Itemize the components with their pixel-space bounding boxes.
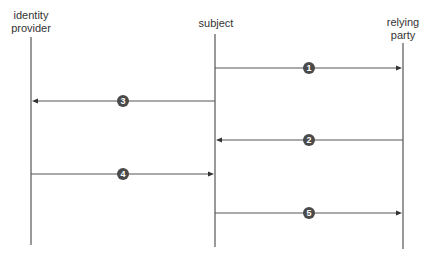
step-number: 3 — [120, 96, 125, 106]
sequence-diagram: 13245 — [0, 0, 433, 262]
step-number: 2 — [306, 135, 311, 145]
arrowhead-icon — [396, 66, 402, 71]
arrowhead-icon — [396, 211, 402, 216]
arrowhead-icon — [216, 138, 222, 143]
step-number: 4 — [120, 169, 125, 179]
arrowhead-icon — [32, 99, 38, 104]
step-number: 5 — [306, 208, 311, 218]
step-number: 1 — [306, 63, 311, 73]
arrowhead-icon — [208, 172, 214, 177]
